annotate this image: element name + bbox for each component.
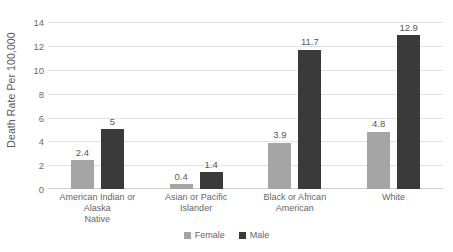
bar-value-label: 3.9 [273, 130, 286, 140]
chart-legend: Female Male [0, 228, 453, 242]
legend-swatch-icon-male [239, 232, 246, 239]
y-tick-8: 8 [4, 90, 44, 100]
bar-male[interactable] [397, 35, 420, 189]
legend-swatch-icon-female [184, 232, 191, 239]
y-axis-ticks: 0 2 4 6 8 10 12 14 [0, 22, 44, 189]
bar-value-label: 2.4 [76, 148, 89, 158]
bar-groups: 2.4 5 0.4 1.4 3.9 11.7 [48, 22, 443, 189]
bar-slot-male: 5 [101, 22, 124, 189]
y-tick-2: 2 [4, 161, 44, 171]
bar-female[interactable] [170, 184, 193, 189]
legend-item-female[interactable]: Female [184, 231, 225, 240]
bar-value-label: 1.4 [205, 160, 218, 170]
bar-value-label: 5 [110, 117, 115, 127]
bar-male[interactable] [101, 129, 124, 189]
y-tick-14: 14 [4, 18, 44, 28]
x-axis-category-labels: American Indian or Alaska Native Asian o… [48, 192, 443, 222]
bar-slot-male: 12.9 [397, 22, 420, 189]
bar-slot-female: 3.9 [268, 22, 291, 189]
bar-group-white: 4.8 12.9 [344, 22, 443, 189]
legend-label-male: Male [250, 231, 270, 240]
bar-group-asian-pacific-islander: 0.4 1.4 [147, 22, 246, 189]
x-label-black-african-american: Black or African American [246, 192, 345, 222]
bar-slot-male: 11.7 [298, 22, 321, 189]
bar-female[interactable] [268, 143, 291, 190]
x-label-white: White [344, 192, 443, 222]
bar-slot-male: 1.4 [200, 22, 223, 189]
bar-male[interactable] [298, 50, 321, 190]
bar-value-label: 11.7 [301, 37, 319, 47]
y-tick-0: 0 [4, 185, 44, 195]
bar-male[interactable] [200, 172, 223, 189]
bar-group-american-indian-alaska-native: 2.4 5 [48, 22, 147, 189]
y-tick-6: 6 [4, 114, 44, 124]
x-label-line1: American Indian or Alaska [60, 192, 136, 213]
bar-value-label: 12.9 [399, 23, 418, 33]
y-tick-10: 10 [4, 66, 44, 76]
bar-female[interactable] [367, 132, 390, 189]
y-tick-4: 4 [4, 137, 44, 147]
bar-value-label: 4.8 [372, 119, 385, 129]
bar-slot-female: 2.4 [71, 22, 94, 189]
bar-group-black-african-american: 3.9 11.7 [246, 22, 345, 189]
x-label-asian-pacific-islander: Asian or Pacific Islander [147, 192, 246, 222]
x-label-american-indian-alaska-native: American Indian or Alaska Native [48, 192, 147, 222]
legend-label-female: Female [195, 231, 225, 240]
bar-female[interactable] [71, 160, 94, 189]
y-tick-12: 12 [4, 42, 44, 52]
bar-slot-female: 4.8 [367, 22, 390, 189]
x-label-line2: Native [85, 214, 111, 224]
legend-item-male[interactable]: Male [239, 231, 270, 240]
bar-value-label: 0.4 [175, 172, 188, 182]
bar-chart: Death Rate Per 100,000 0 2 4 6 8 10 12 1… [0, 0, 453, 252]
bar-slot-female: 0.4 [170, 22, 193, 189]
